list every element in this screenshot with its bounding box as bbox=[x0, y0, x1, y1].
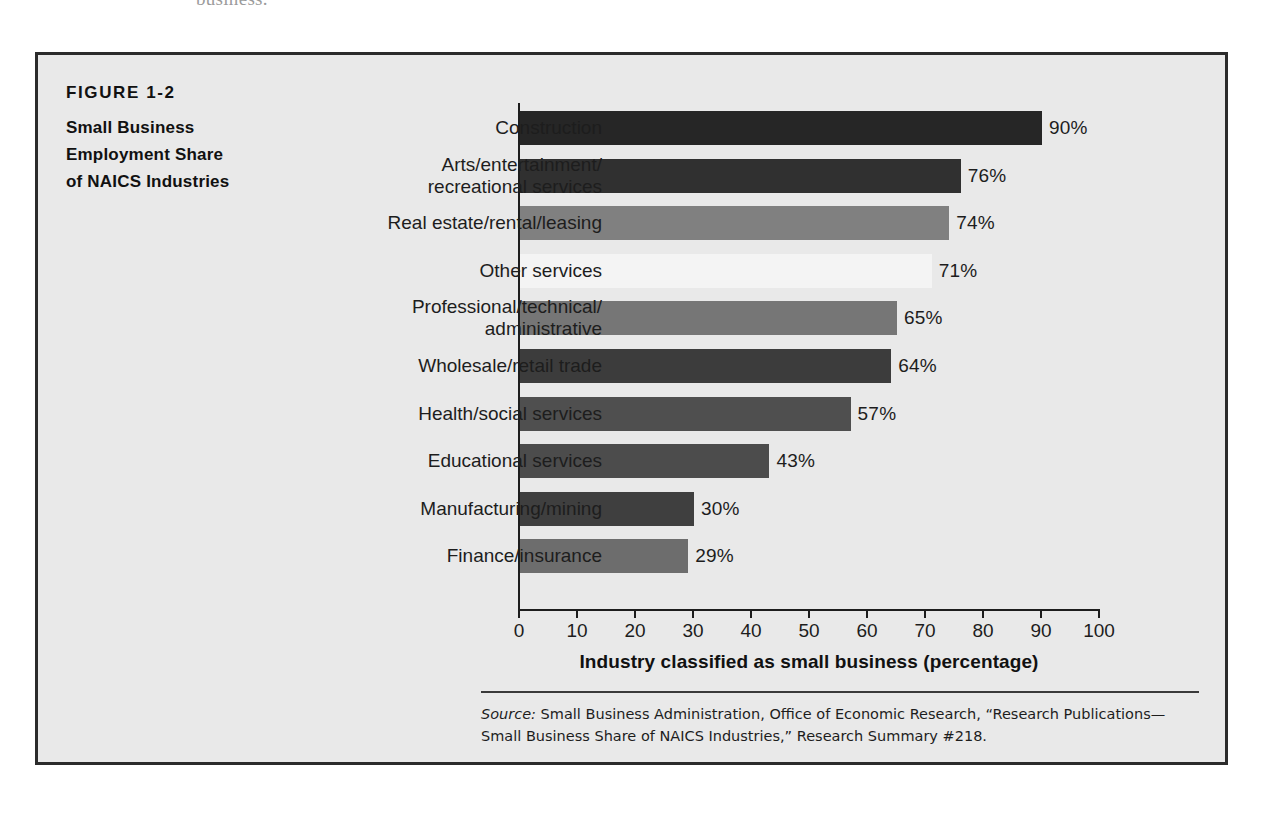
x-tick bbox=[518, 609, 520, 618]
page-body-text-fragment: business. bbox=[196, 0, 268, 10]
source-note: Source: Small Business Administration, O… bbox=[481, 703, 1205, 747]
bar-value-label: 43% bbox=[776, 450, 815, 472]
category-label-line: Real estate/rental/leasing bbox=[388, 212, 602, 234]
x-tick-label: 70 bbox=[914, 620, 935, 642]
category-label: Arts/entertainment/recreational services bbox=[428, 154, 602, 198]
bar-value-label: 90% bbox=[1049, 117, 1088, 139]
x-tick bbox=[982, 609, 984, 618]
category-label-line: Professional/technical/ bbox=[412, 296, 602, 318]
x-tick bbox=[1098, 609, 1100, 618]
x-tick-label: 0 bbox=[514, 620, 525, 642]
figure-title-line-3: of NAICS Industries bbox=[66, 168, 276, 195]
x-tick-label: 90 bbox=[1030, 620, 1051, 642]
figure-title-line-1: Small Business bbox=[66, 114, 276, 141]
bar-value-label: 64% bbox=[898, 355, 937, 377]
category-label-line: Wholesale/retail trade bbox=[418, 355, 602, 377]
figure-caption-block: FIGURE 1-2 Small Business Employment Sha… bbox=[66, 83, 276, 195]
category-label-line: Other services bbox=[480, 260, 602, 282]
category-label-line: Finance/insurance bbox=[447, 545, 602, 567]
category-label-line: administrative bbox=[412, 318, 602, 340]
category-label: Manufacturing/mining bbox=[420, 498, 602, 520]
x-tick bbox=[576, 609, 578, 618]
x-tick bbox=[1040, 609, 1042, 618]
category-label: Construction bbox=[495, 117, 602, 139]
source-body: Small Business Administration, Office of… bbox=[481, 706, 1165, 744]
bar-value-label: 65% bbox=[904, 307, 943, 329]
category-label-line: Construction bbox=[495, 117, 602, 139]
x-tick-label: 50 bbox=[798, 620, 819, 642]
x-tick bbox=[750, 609, 752, 618]
x-tick bbox=[924, 609, 926, 618]
bar-value-label: 71% bbox=[939, 260, 978, 282]
source-divider bbox=[481, 691, 1199, 693]
category-label: Wholesale/retail trade bbox=[418, 355, 602, 377]
category-label: Health/social services bbox=[418, 403, 602, 425]
x-tick-label: 10 bbox=[566, 620, 587, 642]
category-label-line: Educational services bbox=[428, 450, 602, 472]
x-tick bbox=[866, 609, 868, 618]
x-tick bbox=[634, 609, 636, 618]
category-label-line: recreational services bbox=[428, 176, 602, 198]
x-tick-label: 80 bbox=[972, 620, 993, 642]
category-label-line: Arts/entertainment/ bbox=[428, 154, 602, 176]
category-label: Finance/insurance bbox=[447, 545, 602, 567]
category-label-line: Manufacturing/mining bbox=[420, 498, 602, 520]
x-tick-label: 40 bbox=[740, 620, 761, 642]
x-axis-title: Industry classified as small business (p… bbox=[518, 651, 1100, 673]
category-label-line: Health/social services bbox=[418, 403, 602, 425]
bar-value-label: 57% bbox=[858, 403, 897, 425]
category-label: Professional/technical/administrative bbox=[412, 296, 602, 340]
source-label: Source: bbox=[481, 706, 536, 722]
x-tick-label: 60 bbox=[856, 620, 877, 642]
figure-number: FIGURE 1-2 bbox=[66, 83, 276, 103]
x-tick bbox=[692, 609, 694, 618]
bar-value-label: 76% bbox=[968, 165, 1007, 187]
figure-title-line-2: Employment Share bbox=[66, 141, 276, 168]
bar-chart-plot-area: 90%76%74%71%65%64%57%43%30%29% 010203040… bbox=[518, 103, 1118, 615]
category-label: Real estate/rental/leasing bbox=[388, 212, 602, 234]
x-tick-label: 100 bbox=[1083, 620, 1115, 642]
x-tick-label: 20 bbox=[624, 620, 645, 642]
figure-frame: FIGURE 1-2 Small Business Employment Sha… bbox=[35, 52, 1228, 765]
bar-value-label: 29% bbox=[695, 545, 734, 567]
category-label: Other services bbox=[480, 260, 602, 282]
bar-value-label: 30% bbox=[701, 498, 740, 520]
category-label: Educational services bbox=[428, 450, 602, 472]
x-tick-label: 30 bbox=[682, 620, 703, 642]
x-tick bbox=[808, 609, 810, 618]
bar-value-label: 74% bbox=[956, 212, 995, 234]
